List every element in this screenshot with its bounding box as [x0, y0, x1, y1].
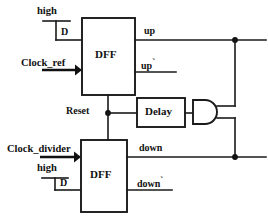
label-clock-ref: Clock_ref	[21, 58, 65, 69]
label-d-bottom: D	[60, 178, 67, 188]
label-dff-top: DFF	[95, 49, 116, 60]
label-high-bottom: high	[37, 163, 57, 174]
diagram-canvas	[0, 0, 268, 219]
label-up: up	[144, 26, 155, 36]
clock-divider-arrowhead	[74, 152, 81, 163]
label-down-bar-text: down	[137, 178, 160, 189]
label-delay: Delay	[145, 106, 172, 117]
pfd-logic-diagram: high D Clock_ref DFF up up` Reset Delay …	[0, 0, 268, 219]
label-up-bar-text: up	[141, 60, 152, 71]
label-reset: Reset	[66, 106, 89, 116]
label-d-top: D	[61, 27, 68, 37]
label-clock-divider: Clock_divider	[7, 144, 71, 155]
label-up-bar-tick: `	[152, 57, 155, 67]
label-down: down	[139, 143, 162, 153]
label-down-bar: down`	[137, 176, 163, 189]
clock-ref-arrowhead	[75, 65, 82, 76]
label-dff-bottom: DFF	[90, 169, 111, 180]
label-high-top: high	[37, 6, 57, 17]
label-down-bar-tick: `	[160, 175, 163, 185]
label-up-bar: up`	[141, 58, 155, 71]
junction-down-bus	[232, 154, 238, 160]
and-gate-shape	[193, 100, 217, 124]
